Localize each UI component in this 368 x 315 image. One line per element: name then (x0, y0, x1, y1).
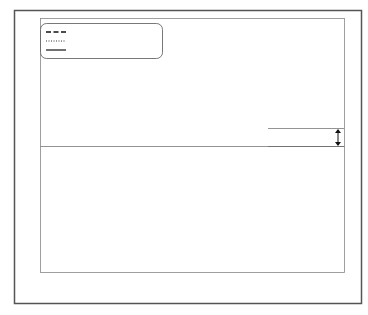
legend (41, 24, 163, 59)
efficiency-chart (0, 0, 368, 315)
